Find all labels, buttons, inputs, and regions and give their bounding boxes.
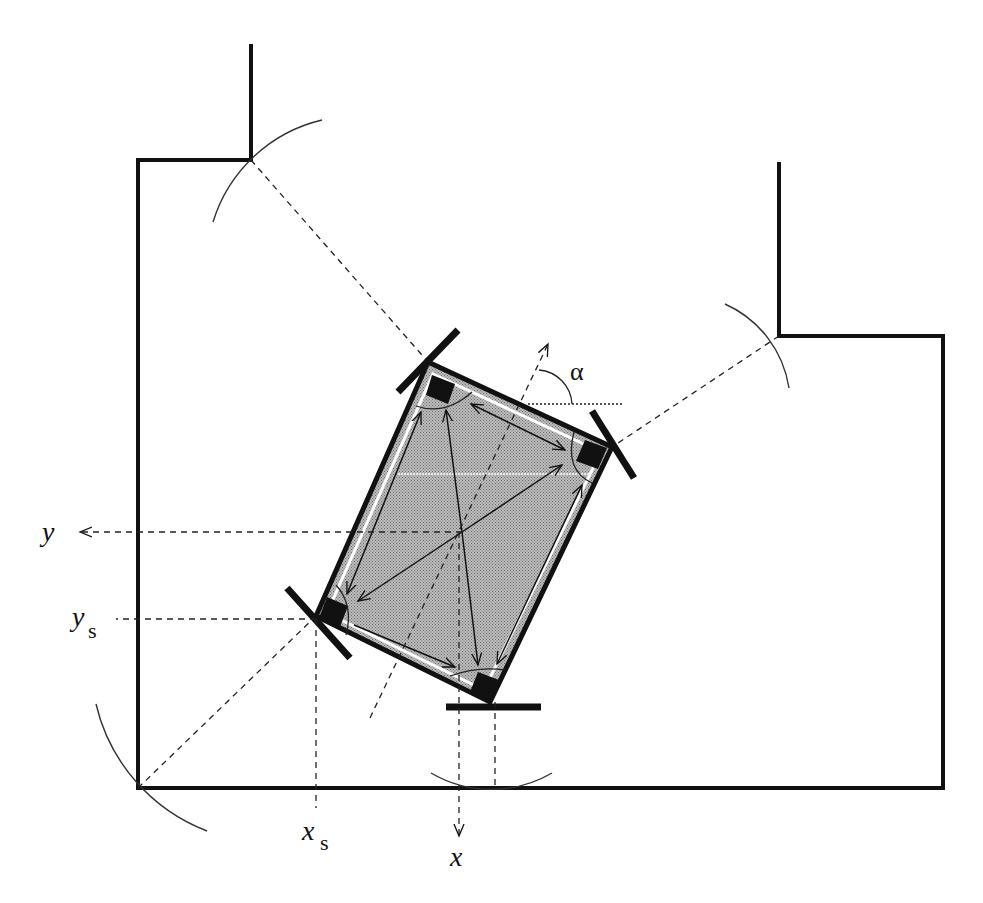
- sightline-upper-left: [251, 160, 428, 362]
- y-axis-label: y: [39, 516, 55, 547]
- xs-label: x: [301, 815, 315, 846]
- xs-subscript: s: [320, 830, 329, 855]
- ys-label: y: [69, 601, 85, 632]
- sightline-upper-right: [612, 336, 779, 447]
- arc-upper-left-corner: [213, 120, 322, 222]
- x-axis-label: x: [449, 841, 463, 872]
- ys-subscript: s: [88, 618, 97, 643]
- sightline-lower-left: [138, 616, 316, 788]
- alpha-label: α: [570, 357, 584, 386]
- diagram-canvas: α y y s x s x: [0, 0, 983, 903]
- arc-lower-left-corner: [96, 704, 207, 831]
- alpha-arc: [539, 370, 572, 404]
